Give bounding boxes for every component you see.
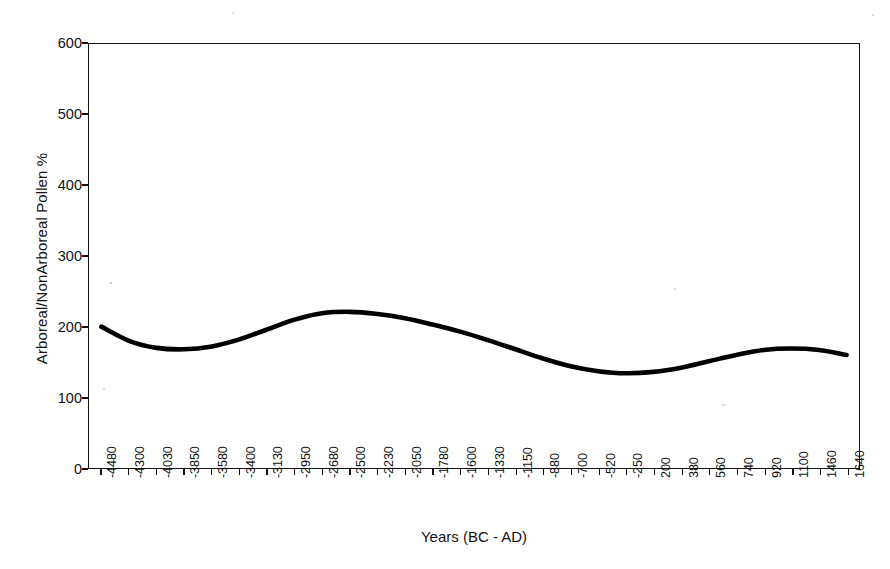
x-axis-title: Years (BC - AD)	[88, 528, 860, 545]
x-axis-tick-mark	[543, 469, 544, 475]
chart-figure: Arboreal/NonArboreal Pollen % 0100200300…	[0, 0, 890, 569]
scan-speckle	[722, 404, 725, 406]
x-axis-tick-mark	[737, 469, 738, 475]
x-axis-tick-mark	[432, 469, 433, 475]
x-axis-tick-label: -2680	[327, 446, 341, 478]
x-axis-tick-label: 1460	[825, 450, 839, 478]
x-axis-tick-mark	[654, 469, 655, 475]
x-axis-tick-label: -1330	[493, 446, 507, 478]
x-axis-tick-mark	[239, 469, 240, 475]
scan-speckle	[232, 12, 234, 14]
x-axis-tick-label: -3850	[188, 446, 202, 478]
x-axis-tick-label: 1640	[853, 450, 867, 478]
x-axis-tick-mark	[709, 469, 710, 475]
x-axis-tick-mark	[183, 469, 184, 475]
x-axis-tick-mark	[322, 469, 323, 475]
x-axis-tick-mark	[820, 469, 821, 475]
x-axis-tick-mark	[682, 469, 683, 475]
x-axis-tick-mark	[128, 469, 129, 475]
x-axis-tick-mark	[405, 469, 406, 475]
y-axis-tick-label: 600	[36, 35, 82, 51]
y-axis-tick-mark	[82, 184, 88, 185]
x-axis-tick-label: -4030	[161, 446, 175, 478]
x-axis-tick-label: -520	[604, 453, 618, 478]
y-axis-tick-label: 300	[36, 248, 82, 264]
y-axis-tick-label: 100	[36, 390, 82, 406]
x-axis-tick-mark	[100, 469, 101, 475]
x-axis-tick-label: 1100	[797, 451, 811, 478]
x-axis-tick-mark	[156, 469, 157, 475]
x-axis-tick-mark	[349, 469, 350, 475]
y-axis-tick-mark	[82, 397, 88, 398]
y-axis-tick-mark	[82, 468, 88, 469]
x-axis-tick-label: -3130	[271, 446, 285, 478]
y-axis-tick-mark	[82, 326, 88, 327]
y-axis-tick-mark	[82, 113, 88, 114]
x-axis-tick-label: 560	[714, 457, 728, 478]
x-axis-tick-mark	[765, 469, 766, 475]
y-axis-tick-label: 200	[36, 319, 82, 335]
x-axis-tick-mark	[294, 469, 295, 475]
x-axis-tick-label: -700	[576, 453, 590, 478]
x-axis-tick-label: -2950	[299, 446, 313, 478]
x-axis-tick-mark	[571, 469, 572, 475]
x-axis-tick-label: 200	[659, 457, 673, 478]
x-axis-tick-label: -250	[631, 453, 645, 478]
scan-speckle	[674, 288, 676, 290]
x-axis-tick-label: -1600	[465, 446, 479, 478]
y-axis-tick-label: 0	[36, 461, 82, 477]
x-axis-tick-label: -1780	[437, 446, 451, 478]
y-axis-tick-label: 400	[36, 177, 82, 193]
x-axis-tick-label: -3400	[244, 446, 258, 478]
x-axis-tick-mark	[266, 469, 267, 475]
x-axis-tick-mark	[377, 469, 378, 475]
data-line-series	[89, 44, 859, 468]
x-axis-tick-label: -3580	[216, 446, 230, 478]
x-axis-tick-label: -1150	[521, 447, 535, 478]
y-axis-tick-label: 500	[36, 106, 82, 122]
y-axis-tick-mark	[82, 42, 88, 43]
x-axis-tick-label: -2500	[354, 446, 368, 478]
x-axis-tick-label: -4300	[133, 446, 147, 478]
scan-speckle	[103, 388, 105, 390]
x-axis-tick-label: 380	[687, 457, 701, 478]
x-axis-tick-mark	[792, 469, 793, 475]
y-axis-tick-labels: 0100200300400500600	[34, 0, 82, 569]
plot-area	[88, 43, 860, 469]
x-axis-tick-mark	[211, 469, 212, 475]
y-axis-tick-mark	[82, 255, 88, 256]
x-axis-tick-mark	[626, 469, 627, 475]
x-axis-tick-label: -4480	[105, 446, 119, 478]
x-axis-tick-mark	[599, 469, 600, 475]
x-axis-tick-mark	[488, 469, 489, 475]
x-axis-tick-label: -880	[548, 453, 562, 478]
scan-speckle	[872, 14, 874, 16]
x-axis-tick-label: 920	[770, 457, 784, 478]
scan-speckle	[110, 282, 112, 284]
x-axis-tick-mark	[460, 469, 461, 475]
x-axis-tick-label: -2230	[382, 446, 396, 478]
x-axis-tick-label: -2050	[410, 446, 424, 478]
x-axis-tick-label: 740	[742, 457, 756, 478]
x-axis-tick-mark	[516, 469, 517, 475]
x-axis-tick-mark	[848, 469, 849, 475]
